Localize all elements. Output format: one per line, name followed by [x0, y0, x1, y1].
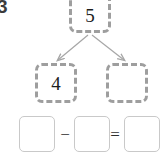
equation-box-minuend[interactable] [19, 116, 55, 152]
equation-row: − = [0, 112, 162, 154]
minus-operator: − [56, 116, 74, 152]
number-bond: 5 4 [0, 0, 162, 108]
bond-part-box-right[interactable] [106, 63, 148, 103]
bond-part-box-left[interactable]: 4 [35, 63, 77, 103]
equals-operator: = [106, 116, 124, 152]
arrow-to-right-part [92, 35, 124, 60]
bond-whole-value: 5 [85, 6, 95, 25]
bond-part-left-value: 4 [51, 74, 61, 93]
equation-box-subtrahend[interactable] [74, 116, 110, 152]
bond-whole-box[interactable]: 5 [69, 0, 111, 33]
worksheet-problem: 3 5 4 − = [0, 0, 162, 154]
equation-box-difference[interactable] [124, 116, 160, 152]
arrow-to-left-part [58, 35, 88, 60]
